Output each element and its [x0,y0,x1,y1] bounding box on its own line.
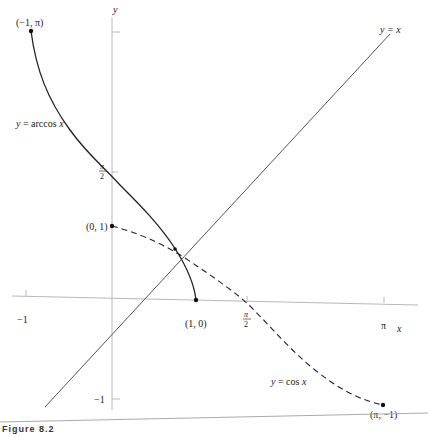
label-pi-neg1: (π, −1) [370,409,397,421]
label-0-1: (0, 1) [86,221,108,233]
tick-label-x-neg1: −1 [17,314,28,325]
x-axis-label: x [396,323,402,334]
y-axis-label: y [112,4,118,15]
label-identity: y = x [379,24,401,35]
svg-text:2: 2 [244,320,248,329]
label-1-0: (1, 0) [185,318,207,330]
point-0-1 [110,224,114,228]
tick-label-x-pi: π [381,320,386,331]
point-pi-neg1 [381,403,385,407]
svg-text:π: π [244,310,249,319]
point-1-0 [194,298,198,302]
tick-label-y-neg1: −1 [94,394,105,405]
svg-text:π: π [100,162,105,171]
point-neg1-pi [29,29,33,33]
label-arccos: y = arccos x [15,118,64,129]
tick-label-x-pi-half: π 2 [243,310,251,329]
figure-caption: Figure 8.2 [2,424,55,434]
arccos-curve [31,31,196,300]
point-intersection [173,247,177,251]
label-neg1-pi: (−1, π) [16,17,43,29]
tick-label-y-pi-half: π 2 [99,162,107,181]
page-rule [0,413,428,422]
svg-text:2: 2 [100,172,104,181]
x-axis [12,296,418,305]
label-cos: y = cos x [270,376,307,387]
